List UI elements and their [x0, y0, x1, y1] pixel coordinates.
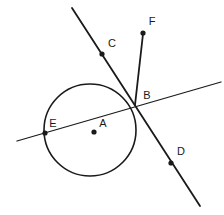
circle-A	[44, 84, 136, 176]
ray-BF	[135, 34, 143, 105]
point-dot-A	[91, 129, 96, 134]
point-labels: A B C D E F	[49, 15, 185, 157]
geometry-canvas: A B C D E F	[0, 0, 224, 215]
point-dot-C	[99, 51, 104, 56]
point-dot-E	[42, 130, 47, 135]
point-label-D: D	[177, 145, 185, 157]
point-label-F: F	[149, 15, 156, 27]
point-markers	[42, 30, 173, 165]
point-label-C: C	[108, 37, 116, 49]
point-label-B: B	[143, 89, 150, 101]
point-dot-F	[140, 30, 145, 35]
point-dot-D	[168, 160, 173, 165]
point-label-A: A	[99, 117, 107, 129]
point-label-E: E	[49, 117, 56, 129]
geometry-diagram: A B C D E F	[0, 0, 224, 215]
